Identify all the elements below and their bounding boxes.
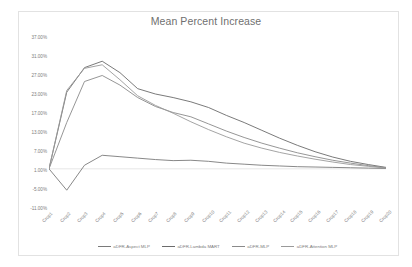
x-axis-tick-label: Crop1 xyxy=(41,211,53,223)
x-axis-tick-label: Crop12 xyxy=(236,209,250,223)
series-line xyxy=(49,61,386,169)
x-axis-tick-label: Crop18 xyxy=(343,209,357,223)
legend-swatch-icon xyxy=(162,246,175,247)
x-axis-tick-label: Crop17 xyxy=(325,209,339,223)
x-axis-tick-label: Crop19 xyxy=(360,209,374,223)
x-axis-tick-label: Crop8 xyxy=(165,211,177,223)
x-axis-tick-label: Crop15 xyxy=(290,209,304,223)
series-line xyxy=(49,75,386,168)
x-axis-tick-label: Crop5 xyxy=(112,211,124,223)
y-axis-tick-label: 1.00% xyxy=(13,168,47,173)
legend-item[interactable]: aDFR-Attention MLP xyxy=(281,244,337,249)
x-axis-tick-label: Crop2 xyxy=(59,211,71,223)
y-axis-tick-label: 37.00% xyxy=(13,35,47,40)
chart-legend: aDFR-Aspect MLPaDFR-Lambda MARTaDFR-MLPa… xyxy=(49,241,386,251)
legend-label: aDFR-MLP xyxy=(247,244,269,249)
x-axis-tick-label: Crop4 xyxy=(94,211,106,223)
y-axis-tick-label: 23.00% xyxy=(13,92,47,97)
y-axis-tick-label: 7.00% xyxy=(13,149,47,154)
x-axis-tick-label: Crop9 xyxy=(183,211,195,223)
legend-label: aDFR-Attention MLP xyxy=(297,244,338,249)
legend-swatch-icon xyxy=(281,246,294,247)
x-axis-tick-label: Crop3 xyxy=(77,211,89,223)
y-axis-tick-label: -5.00% xyxy=(13,187,47,192)
y-axis-tick-label: 31.00% xyxy=(13,54,47,59)
chart-container: Mean Percent Increase 37.00%31.00%27.00%… xyxy=(0,0,412,267)
y-axis-tick-label: -11.00% xyxy=(13,206,47,211)
x-axis-tick-label: Crop10 xyxy=(201,209,215,223)
plot-svg xyxy=(49,37,386,208)
legend-label: aDFR-Lambda MART xyxy=(177,244,219,249)
legend-swatch-icon xyxy=(98,246,111,247)
y-axis: 37.00%31.00%27.00%23.00%17.00%13.00%7.00… xyxy=(13,37,47,208)
legend-swatch-icon xyxy=(232,246,245,247)
x-axis-tick-label: Crop6 xyxy=(130,211,142,223)
x-axis: Crop1Crop2Crop3Crop4Crop5Crop6Crop7Crop8… xyxy=(49,208,386,240)
legend-label: aDFR-Aspect MLP xyxy=(113,244,150,249)
series-line xyxy=(49,65,386,169)
chart-title: Mean Percent Increase xyxy=(0,15,412,27)
y-axis-tick-label: 13.00% xyxy=(13,130,47,135)
x-axis-tick-label: Crop13 xyxy=(254,209,268,223)
x-axis-tick-label: Crop14 xyxy=(272,209,286,223)
x-axis-tick-label: Crop7 xyxy=(148,211,160,223)
x-axis-tick-label: Crop20 xyxy=(378,209,392,223)
y-axis-tick-label: 27.00% xyxy=(13,73,47,78)
x-axis-tick-label: Crop16 xyxy=(307,209,321,223)
legend-item[interactable]: aDFR-Aspect MLP xyxy=(98,244,150,249)
legend-item[interactable]: aDFR-Lambda MART xyxy=(162,244,220,249)
y-axis-tick-label: 17.00% xyxy=(13,111,47,116)
legend-item[interactable]: aDFR-MLP xyxy=(232,244,269,249)
plot-area xyxy=(49,37,386,208)
x-axis-tick-label: Crop11 xyxy=(219,210,233,224)
